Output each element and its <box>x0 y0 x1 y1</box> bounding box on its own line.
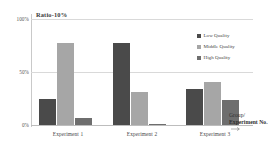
x-tick-experiment-3: Experiment 3 <box>184 131 246 137</box>
bar-group-experiment-1 <box>39 19 97 125</box>
legend-label-low-quality: Low Quality <box>204 33 230 38</box>
bar-middle-quality-2 <box>131 92 148 125</box>
legend: Low Quality Middle Quality High Quality <box>197 31 259 64</box>
bar-middle-quality-1 <box>57 43 74 125</box>
legend-swatch-middle-quality-icon <box>197 45 201 49</box>
bar-low-quality-2 <box>113 43 130 125</box>
bar-chart: Ratio-10% 100% 50% 0% <box>0 0 278 153</box>
bar-middle-quality-3 <box>204 82 221 125</box>
x-axis-ticks: Experiment 1 Experiment 2 Experiment 3 <box>31 131 253 143</box>
x-axis-title: Group/ Experiment No. <box>229 112 277 126</box>
x-axis-arrow-icon <box>231 127 241 131</box>
legend-label-middle-quality: Middle Quality <box>204 44 235 49</box>
bar-high-quality-2 <box>149 124 166 125</box>
x-tick-experiment-1: Experiment 1 <box>37 131 99 137</box>
bar-high-quality-1 <box>75 118 92 125</box>
bar-group-experiment-2 <box>113 19 171 125</box>
legend-item-low-quality: Low Quality <box>197 31 259 40</box>
x-axis-title-line-1: Group/ <box>229 112 277 119</box>
x-tick-experiment-2: Experiment 2 <box>111 131 173 137</box>
y-tick-50: 50% <box>3 69 29 75</box>
legend-label-high-quality: High Quality <box>204 55 231 60</box>
y-tick-0: 0% <box>3 122 29 128</box>
bar-low-quality-3 <box>186 89 203 125</box>
legend-item-high-quality: High Quality <box>197 53 259 62</box>
legend-item-middle-quality: Middle Quality <box>197 42 259 51</box>
legend-swatch-low-quality-icon <box>197 34 201 38</box>
x-axis-title-line-2: Experiment No. <box>229 119 277 126</box>
bar-low-quality-1 <box>39 99 56 126</box>
legend-swatch-high-quality-icon <box>197 56 201 60</box>
chart-title: Ratio-10% <box>36 11 67 18</box>
y-tick-100: 100% <box>3 16 29 22</box>
y-axis-ticks: 100% 50% 0% <box>0 0 29 153</box>
